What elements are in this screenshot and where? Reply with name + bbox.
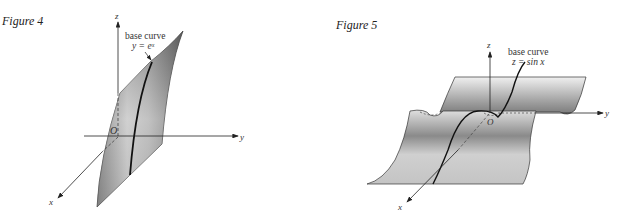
annotation-line-1: base curve — [508, 47, 548, 57]
figure-5: z y x O base curve z = sin x — [367, 40, 609, 212]
annotation-line-2: z = sin x — [511, 57, 545, 67]
x-axis-label: x — [48, 197, 53, 207]
diagram-canvas: z y x O base curve y = eˣ z y x O base c… — [0, 0, 624, 223]
surface-sine — [367, 110, 536, 184]
x-axis — [58, 152, 102, 198]
annotation-line-2: y = eˣ — [131, 41, 155, 51]
figure-4: z y x O base curve y = eˣ — [48, 11, 244, 207]
y-axis-label: y — [239, 132, 244, 142]
y-axis-label: y — [604, 108, 609, 118]
x-axis-label: x — [397, 202, 402, 212]
origin-label: O — [487, 117, 494, 127]
surface-back — [440, 77, 586, 114]
annotation-line-1: base curve — [125, 31, 165, 41]
z-axis-label: z — [114, 11, 119, 21]
origin-label: O — [110, 125, 117, 136]
z-axis-label: z — [486, 40, 491, 50]
